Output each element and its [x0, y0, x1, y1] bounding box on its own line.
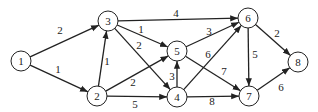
- edge-2-to-5: [106, 56, 169, 91]
- node-label: 6: [245, 12, 251, 24]
- edge-weight-label: 6: [205, 48, 211, 60]
- edge-weight-label: 3: [169, 70, 175, 82]
- edge-5-to-7: [185, 56, 240, 90]
- edge-weight-label: 7: [221, 65, 227, 77]
- edge-weight-label: 2: [130, 76, 136, 88]
- node-label: 4: [174, 91, 180, 103]
- nodes: 12345678: [11, 8, 308, 107]
- edge-weight-label: 8: [209, 95, 215, 107]
- edge-weight-label: 1: [104, 55, 110, 67]
- edge-weight-label: 2: [136, 39, 142, 51]
- weighted-directed-graph: 2112541236837526 12345678: [0, 0, 318, 112]
- edge-weight-label: 5: [252, 48, 258, 60]
- node-5: 5: [167, 41, 187, 61]
- node-1: 1: [11, 51, 31, 71]
- node-label: 2: [94, 90, 100, 102]
- edge-weight-label: 1: [55, 63, 61, 75]
- node-8: 8: [288, 52, 308, 72]
- edge-1-to-3: [30, 25, 99, 57]
- node-label: 7: [246, 90, 252, 102]
- edge-5-to-6: [186, 22, 239, 47]
- node-label: 3: [105, 15, 111, 27]
- edge-weight-label: 2: [57, 24, 63, 36]
- edge-6-to-7: [248, 28, 249, 86]
- node-label: 5: [174, 45, 180, 57]
- edge-weight-label: 6: [278, 81, 284, 93]
- node-6: 6: [238, 8, 258, 28]
- edge-6-to-8: [256, 25, 291, 56]
- edge-weight-label: 5: [132, 98, 138, 110]
- node-2: 2: [87, 86, 107, 106]
- edge-weight-label: 3: [206, 25, 212, 37]
- edge-7-to-8: [257, 68, 290, 91]
- edge-weight-label: 1: [138, 23, 144, 35]
- node-4: 4: [167, 87, 187, 107]
- edge-weight-label: 2: [274, 27, 280, 39]
- node-label: 8: [295, 56, 301, 68]
- node-label: 1: [18, 55, 24, 67]
- node-7: 7: [239, 86, 259, 106]
- node-3: 3: [98, 11, 118, 31]
- edge-weight-label: 4: [173, 7, 179, 19]
- edge-2-to-4: [107, 96, 167, 97]
